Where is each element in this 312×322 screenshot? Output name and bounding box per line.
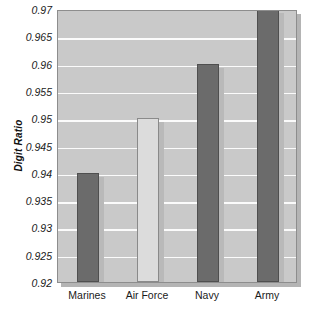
x-axis-tick-label: Navy (195, 289, 219, 301)
y-axis-tick-label: 0.945 (8, 141, 52, 153)
y-axis-tick-label: 0.94 (8, 168, 52, 180)
plot-area (57, 10, 297, 283)
y-axis-tick-label: 0.93 (8, 222, 52, 234)
bar[interactable] (257, 10, 279, 282)
bar-group (77, 11, 104, 282)
x-axis-tick-label: Air Force (126, 289, 169, 301)
bar-group (197, 11, 224, 282)
bar[interactable] (197, 64, 219, 282)
bar[interactable] (137, 118, 159, 282)
bar-chart-figure: Digit Ratio 0.970.9650.960.9550.950.9450… (0, 0, 312, 322)
x-axis-tick-label: Army (255, 289, 280, 301)
x-axis-tick-labels: MarinesAir ForceNavyArmy (57, 289, 297, 309)
y-axis-tick-label: 0.965 (8, 31, 52, 43)
bar-group (257, 11, 284, 282)
y-axis-tick-label: 0.92 (8, 277, 52, 289)
y-axis-tick-label: 0.925 (8, 250, 52, 262)
y-axis-tick-labels: 0.970.9650.960.9550.950.9450.940.9350.93… (8, 10, 52, 283)
bar-shadow (279, 13, 284, 282)
bar-shadow (219, 68, 224, 282)
bar[interactable] (77, 173, 99, 282)
bar-shadow (159, 122, 164, 282)
y-axis-tick-label: 0.935 (8, 195, 52, 207)
bar-shadow (99, 177, 104, 282)
x-axis-tick-label: Marines (68, 289, 105, 301)
y-axis-tick-label: 0.97 (8, 4, 52, 16)
y-axis-tick-label: 0.95 (8, 113, 52, 125)
bars-layer (58, 11, 296, 282)
y-axis-tick-label: 0.955 (8, 86, 52, 98)
bar-group (137, 11, 164, 282)
y-axis-tick-label: 0.96 (8, 59, 52, 71)
